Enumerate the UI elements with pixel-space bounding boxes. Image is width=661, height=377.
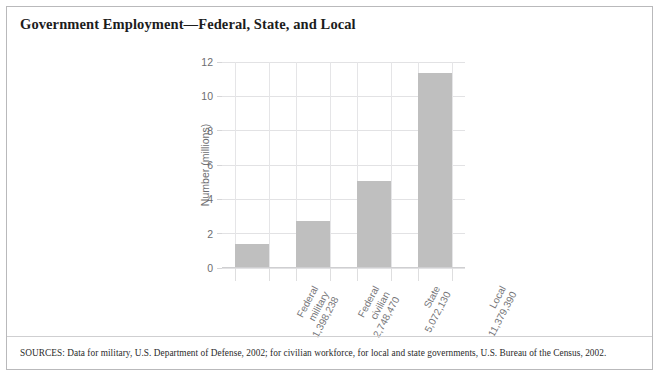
y-tick-label: 10 <box>201 90 213 102</box>
sources-note: SOURCES: Data for military, U.S. Departm… <box>20 348 606 358</box>
y-tick-mark <box>217 165 222 166</box>
x-tick-label-4: Local11,379,390 <box>475 284 518 338</box>
x-gridline <box>452 62 453 268</box>
x-tick-label-3: State5,072,130 <box>411 284 452 334</box>
y-tick-mark <box>217 96 222 97</box>
x-gridline <box>269 62 270 268</box>
chart-plot-region: Number (millions) 024681012Federalmilita… <box>7 7 652 329</box>
x-gridline <box>235 62 236 268</box>
figure-panel: Government Employment—Federal, State, an… <box>6 6 653 370</box>
chart-plot-inner: 024681012Federalmilitary1,398,238Federal… <box>222 62 465 268</box>
chart-axes: 024681012Federalmilitary1,398,238Federal… <box>222 62 465 268</box>
x-tick-mark <box>357 268 358 281</box>
y-tick-label: 6 <box>207 159 213 171</box>
x-gridline <box>330 62 331 268</box>
x-tick-mark <box>418 268 419 281</box>
y-tick-mark <box>217 62 222 63</box>
x-axis-baseline <box>222 267 465 268</box>
x-tick-mark <box>330 268 331 281</box>
y-tick-mark <box>217 130 222 131</box>
bar-1 <box>235 244 269 268</box>
x-tick-mark <box>296 268 297 281</box>
bar-2 <box>296 221 330 268</box>
bar-4 <box>418 73 452 268</box>
bar-3 <box>357 181 391 268</box>
y-tick-label: 4 <box>207 193 213 205</box>
y-tick-label: 0 <box>207 262 213 274</box>
y-tick-mark <box>217 233 222 234</box>
x-tick-mark <box>235 268 236 281</box>
x-tick-label-2: Federalcivilian2,748,470 <box>351 284 402 339</box>
footer-divider <box>7 336 652 337</box>
y-tick-label: 12 <box>201 56 213 68</box>
x-tick-mark <box>452 268 453 281</box>
y-tick-mark <box>217 199 222 200</box>
y-tick-label: 2 <box>207 228 213 240</box>
x-gridline <box>391 62 392 268</box>
x-tick-label-1: Federalmilitary1,398,238 <box>290 284 341 339</box>
y-tick-label: 8 <box>207 125 213 137</box>
x-tick-mark <box>391 268 392 281</box>
x-tick-mark <box>269 268 270 281</box>
y-gridline <box>222 62 465 63</box>
